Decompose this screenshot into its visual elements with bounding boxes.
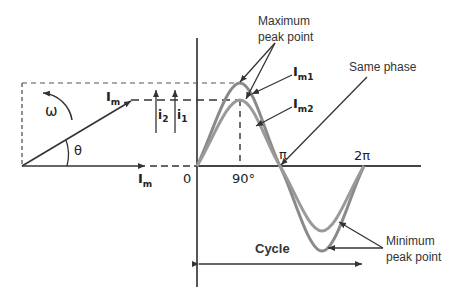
pi-label: π <box>279 147 287 162</box>
two-pi-label: 2π <box>354 148 370 163</box>
theta-label: θ <box>74 143 82 158</box>
theta-arc <box>66 140 68 166</box>
i1-label: i1 <box>177 108 187 124</box>
im2-label: Im2 <box>293 96 313 114</box>
deg90-label: 90° <box>232 171 255 186</box>
phasor-im-label: Im <box>106 89 120 107</box>
i2-label: i2 <box>158 108 168 124</box>
max-peak-label-1: Maximum <box>258 14 310 28</box>
im-axis-label: Im <box>138 171 152 189</box>
same-phase-label: Same phase <box>349 60 416 74</box>
omega-label: ω <box>45 102 58 120</box>
min-peak-label-2: peak point <box>386 250 441 264</box>
origin-label: 0 <box>183 171 191 186</box>
cycle-label: Cycle <box>255 242 290 256</box>
min-peak-label-1: Minimum <box>386 234 435 248</box>
max-peak-label-2: peak point <box>258 30 313 44</box>
im1-label: Im1 <box>293 64 313 82</box>
